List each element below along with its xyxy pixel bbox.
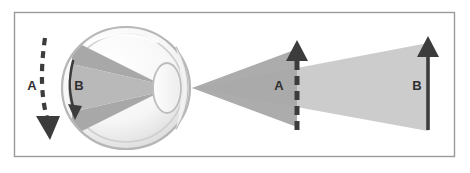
label-a-right: A xyxy=(274,78,284,93)
label-a-left: A xyxy=(27,78,37,93)
ray-diagram-canvas: A B A B xyxy=(0,0,470,173)
eye-lens xyxy=(153,63,181,113)
label-b-right: B xyxy=(412,78,421,93)
label-b-left: B xyxy=(74,78,83,93)
ray-diagram-figure: A B A B xyxy=(0,0,470,173)
